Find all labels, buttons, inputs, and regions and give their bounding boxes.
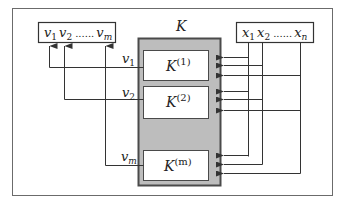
output-box: v1v2......vm (39, 23, 116, 43)
input-box: x1x2......xn (237, 23, 314, 43)
subsystem-km: K(m) (144, 151, 209, 181)
diagram-canvas: K K(1) K(2) K(m) v1v2......vm x1x2......… (0, 0, 345, 203)
output-label-vm: vm (121, 149, 137, 166)
subsystem-k1-superscript: (1) (176, 56, 190, 67)
subsystem-km-superscript: (m) (174, 156, 191, 167)
output-label-v1: v1 (122, 51, 135, 68)
input-connections (224, 43, 301, 174)
system-label: K (175, 18, 188, 34)
output-label-v2: v2 (122, 85, 135, 102)
subsystem-k2: K(2) (144, 87, 209, 119)
subsystem-k2-superscript: (2) (176, 92, 190, 103)
block-diagram: K K(1) K(2) K(m) v1v2......vm x1x2......… (0, 0, 345, 203)
subsystem-k1: K(1) (144, 51, 209, 81)
